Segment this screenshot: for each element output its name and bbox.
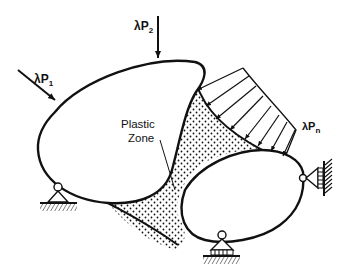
arrow-icon <box>206 76 249 106</box>
load-p2-sub: 2 <box>149 26 154 35</box>
diagram-canvas: λP1 λP2 λPn Plastic Zone <box>0 0 349 280</box>
svg-text:λP1: λP1 <box>34 72 54 88</box>
arrow-icon <box>271 122 287 151</box>
load-p1: λP1 <box>18 70 55 100</box>
zone-label-line1: Plastic <box>121 118 155 130</box>
load-pn-label: λP <box>302 120 315 132</box>
load-p1-sub: 1 <box>49 79 54 88</box>
distributed-load-envelope <box>243 68 296 155</box>
svg-text:λP2: λP2 <box>134 19 154 35</box>
svg-text:λPn: λPn <box>302 120 320 135</box>
load-pn-sub: n <box>315 126 320 135</box>
arrow-icon <box>230 96 263 130</box>
load-p1-label: λP <box>34 72 49 86</box>
load-p2-label: λP <box>134 19 149 33</box>
support-right-wall-roller <box>300 159 333 196</box>
arrow-icon <box>283 130 295 156</box>
load-p2: λP2 <box>134 16 158 58</box>
arrow-icon <box>216 86 256 119</box>
zone-label-line2: Zone <box>128 132 154 144</box>
